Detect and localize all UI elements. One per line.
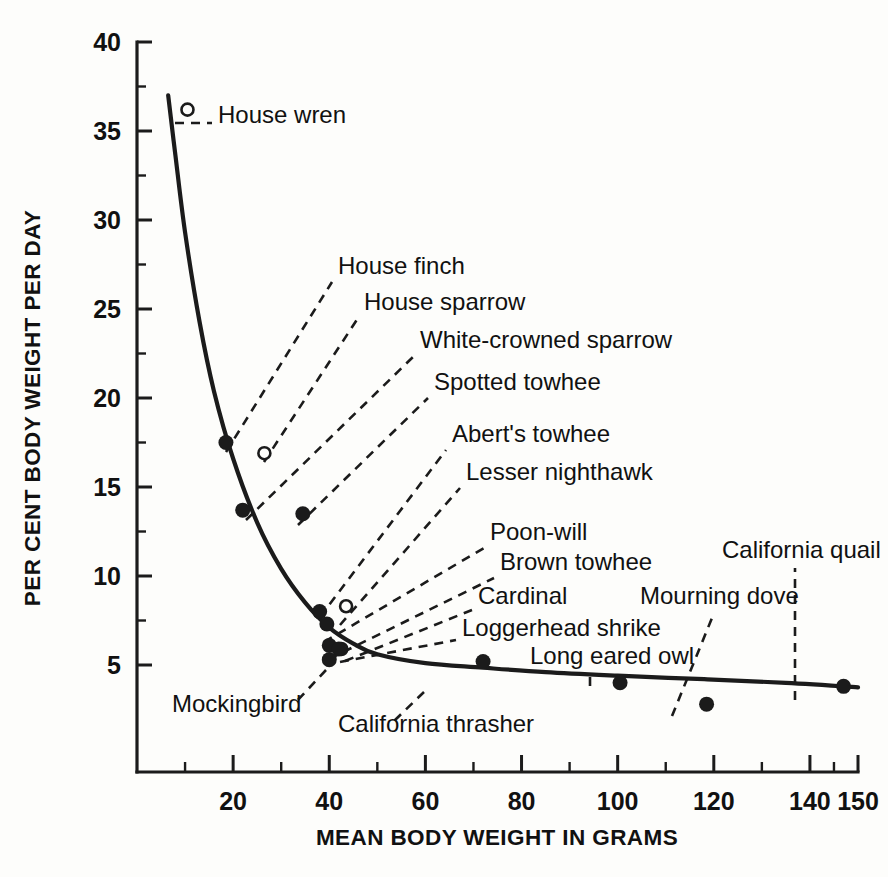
data-point (476, 654, 491, 669)
x-tick-label: 80 (508, 787, 536, 815)
y-tick-label: 30 (93, 206, 121, 234)
species-label: Poon-will (490, 518, 587, 545)
species-label: House sparrow (364, 288, 526, 315)
leader-line (345, 610, 472, 661)
data-point (181, 104, 193, 116)
data-point (218, 435, 233, 450)
leader-line (320, 450, 446, 617)
x-tick-label: 60 (411, 787, 439, 815)
y-axis-tick-labels: 510152025303540 (93, 28, 121, 679)
x-tick-label: 100 (597, 787, 639, 815)
x-axis-title: MEAN BODY WEIGHT IN GRAMS (316, 825, 678, 850)
water-turnover-scatter-chart: 510152025303540 20406080100120140150 Hou… (0, 0, 888, 877)
data-point (613, 675, 628, 690)
species-label: Abert's towhee (452, 420, 610, 447)
species-label: California quail (722, 536, 881, 563)
x-tick-label: 150 (837, 787, 879, 815)
y-tick-label: 35 (93, 117, 121, 145)
leader-line (340, 488, 460, 625)
species-label: White-crowned sparrow (420, 326, 673, 353)
y-tick-label: 20 (93, 384, 121, 412)
leader-line (226, 282, 332, 452)
y-tick-label: 25 (93, 295, 121, 323)
x-tick-label: 120 (693, 787, 735, 815)
y-axis-ticks (137, 42, 152, 665)
leader-line (298, 398, 428, 525)
species-label: Spotted towhee (434, 368, 601, 395)
data-point (295, 506, 310, 521)
data-point (258, 447, 270, 459)
data-point (322, 652, 337, 667)
data-point (699, 697, 714, 712)
species-label: Mourning dove (640, 582, 799, 609)
y-tick-label: 10 (93, 562, 121, 590)
species-label: House finch (338, 252, 465, 279)
x-tick-label: 40 (315, 787, 343, 815)
species-label: Lesser nighthawk (466, 458, 654, 485)
data-point (319, 617, 334, 632)
axes-group (137, 42, 858, 772)
x-axis-ticks (185, 755, 858, 772)
species-label: Mockingbird (172, 690, 301, 717)
x-tick-label: 20 (219, 787, 247, 815)
y-tick-label: 40 (93, 28, 121, 56)
data-point (836, 679, 851, 694)
species-label: House wren (218, 101, 346, 128)
species-label: Loggerhead shrike (462, 614, 661, 641)
y-tick-label: 5 (107, 651, 121, 679)
x-axis-tick-labels: 20406080100120140150 (219, 787, 879, 815)
y-tick-label: 15 (93, 473, 121, 501)
species-label: California thrasher (338, 710, 534, 737)
y-axis-title: PER CENT BODY WEIGHT PER DAY (20, 210, 45, 606)
data-point (340, 600, 352, 612)
chart-figure: 510152025303540 20406080100120140150 Hou… (0, 0, 888, 877)
leader-line (264, 318, 358, 462)
species-labels-group: House wrenHouse finchHouse sparrowWhite-… (172, 101, 881, 737)
species-label: Long eared owl (530, 642, 694, 669)
species-label: Cardinal (478, 582, 567, 609)
data-point (235, 503, 250, 518)
x-tick-label: 140 (789, 787, 831, 815)
species-label: Brown towhee (500, 548, 652, 575)
